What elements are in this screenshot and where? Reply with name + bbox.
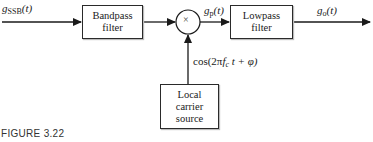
lowpass-filter-block: Lowpassfilter xyxy=(230,5,293,39)
product-signal-label: gp(t) xyxy=(204,4,224,18)
figure-caption: FIGURE 3.22 xyxy=(1,128,64,139)
output-signal-label: go(t) xyxy=(317,4,337,18)
local-carrier-source-block: Localcarriersource xyxy=(160,84,219,129)
bandpass-filter-block: Bandpassfilter xyxy=(82,5,143,39)
carrier-signal-label: cos(2πfc t + φ) xyxy=(193,55,258,69)
multiplier-symbol: × xyxy=(183,14,189,25)
input-signal-label: gSSB(t) xyxy=(2,2,32,16)
